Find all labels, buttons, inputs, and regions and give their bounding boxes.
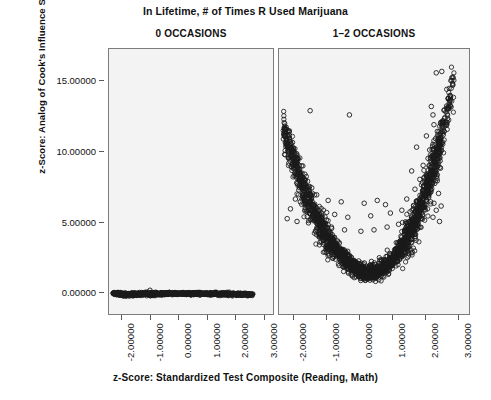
x-tick-mark bbox=[121, 315, 122, 320]
x-tick-mark bbox=[326, 315, 327, 320]
x-tick-mark bbox=[392, 315, 393, 320]
y-tick-mark bbox=[99, 222, 104, 223]
y-axis-tick-labels: 0.000005.0000010.0000015.00000 bbox=[0, 48, 104, 315]
x-axis-title: z-Score: Standardized Test Composite (Re… bbox=[0, 372, 491, 383]
x-tick-label: -1.00000 bbox=[330, 323, 341, 361]
x-tick-mark bbox=[207, 315, 208, 320]
y-tick-mark bbox=[99, 80, 104, 81]
x-tick-label: -2.00000 bbox=[125, 323, 136, 361]
x-tick-label: 3.00000 bbox=[268, 323, 279, 358]
x-axis-ticks-panel-0 bbox=[108, 315, 274, 321]
x-tick-label: 3.00000 bbox=[462, 323, 473, 358]
y-tick-mark bbox=[99, 292, 104, 293]
scatter-points-panel-0 bbox=[109, 49, 273, 314]
x-tick-mark bbox=[293, 315, 294, 320]
x-tick-label: -1.00000 bbox=[154, 323, 165, 361]
scatter-figure: In Lifetime, # of Times R Used Marijuana… bbox=[0, 0, 491, 400]
panel-title-1-2-occasions: 1–2 OCCASIONS bbox=[278, 28, 470, 39]
x-tick-label: 0.00000 bbox=[182, 323, 193, 358]
y-tick-label: 5.00000 bbox=[62, 216, 96, 227]
x-tick-mark bbox=[235, 315, 236, 320]
x-tick-mark bbox=[359, 315, 360, 320]
chart-main-title: In Lifetime, # of Times R Used Marijuana bbox=[0, 5, 491, 17]
x-tick-label: 2.00000 bbox=[239, 323, 250, 358]
x-tick-mark bbox=[178, 315, 179, 320]
x-tick-label: 0.00000 bbox=[363, 323, 374, 358]
x-tick-mark bbox=[264, 315, 265, 320]
y-tick-label: 10.00000 bbox=[56, 146, 96, 157]
y-tick-label: 15.00000 bbox=[56, 75, 96, 86]
y-tick-mark bbox=[99, 151, 104, 152]
x-tick-label: 2.00000 bbox=[429, 323, 440, 358]
panel-title-0-occasions: 0 OCCASIONS bbox=[108, 28, 274, 39]
plot-panel-1-2-occasions bbox=[278, 48, 470, 315]
x-tick-mark bbox=[458, 315, 459, 320]
scatter-points-panel-1 bbox=[279, 49, 469, 314]
y-tick-label: 0.00000 bbox=[62, 287, 96, 298]
x-tick-label: 1.00000 bbox=[396, 323, 407, 358]
plot-panel-0-occasions bbox=[108, 48, 274, 315]
x-tick-label: 1.00000 bbox=[211, 323, 222, 358]
x-tick-mark bbox=[150, 315, 151, 320]
x-tick-label: -2.00000 bbox=[297, 323, 308, 361]
x-tick-mark bbox=[425, 315, 426, 320]
x-axis-ticks-panel-1 bbox=[278, 315, 470, 321]
